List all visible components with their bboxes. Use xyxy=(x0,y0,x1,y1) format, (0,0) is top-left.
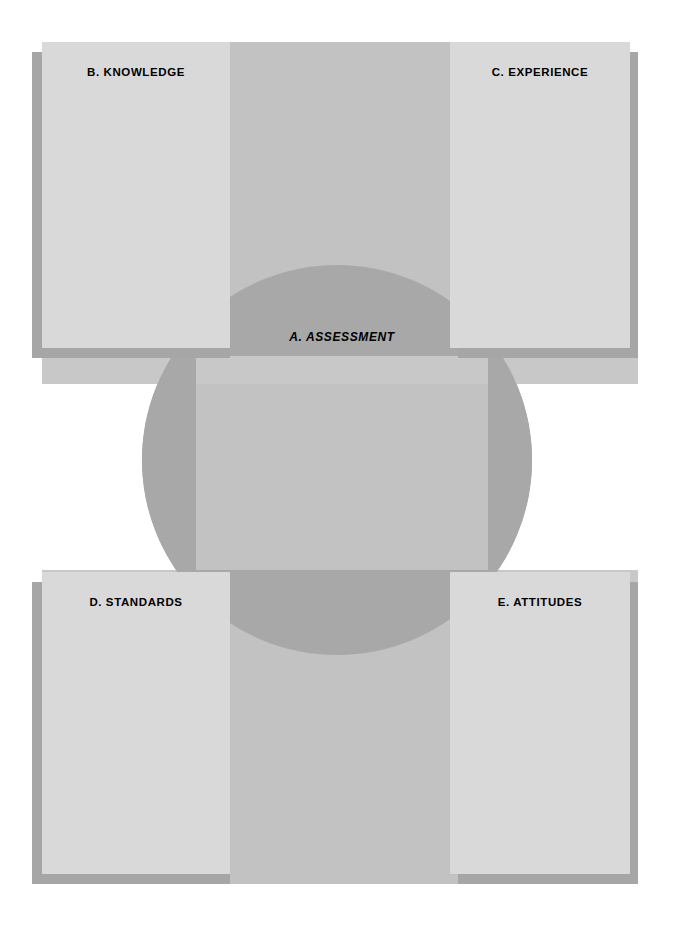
vertical-connector-band xyxy=(196,42,488,884)
experience-box[interactable] xyxy=(450,42,630,348)
standards-box[interactable] xyxy=(42,572,230,874)
experience-box-label: C. EXPERIENCE xyxy=(450,66,630,78)
diagram-canvas: B. KNOWLEDGE C. EXPERIENCE D. STANDARDS … xyxy=(0,0,679,925)
horizontal-connector-band-top xyxy=(42,356,638,384)
standards-box-label: D. STANDARDS xyxy=(42,596,230,608)
assessment-center-label: A. ASSESSMENT xyxy=(196,330,488,344)
attitudes-box[interactable] xyxy=(450,572,630,874)
knowledge-box-label: B. KNOWLEDGE xyxy=(42,66,230,78)
knowledge-box[interactable] xyxy=(42,42,230,348)
attitudes-box-label: E. ATTITUDES xyxy=(450,596,630,608)
